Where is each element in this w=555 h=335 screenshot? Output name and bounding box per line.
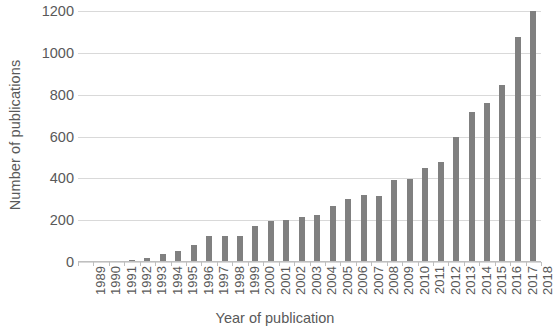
x-axis-tick-label: 2004 — [324, 266, 339, 308]
bar — [361, 195, 367, 262]
bar — [484, 103, 490, 262]
bar — [422, 168, 428, 262]
x-axis-tick-label: 2011 — [432, 266, 447, 308]
bar — [391, 180, 397, 262]
x-axis-tick-label: 2006 — [355, 266, 370, 308]
y-axis-tick-label: 200 — [28, 213, 74, 228]
x-axis-tick-label: 1993 — [154, 266, 169, 308]
x-axis-tick-label: 1999 — [247, 266, 262, 308]
x-axis-tick-labels: 1989199019911992199319941995199619971998… — [78, 266, 541, 308]
x-axis-title: Year of publication — [0, 310, 550, 326]
y-axis-tick-label: 1200 — [28, 4, 74, 19]
x-axis-tick-label: 2009 — [401, 266, 416, 308]
bar — [376, 196, 382, 263]
bar — [252, 226, 258, 262]
y-axis-tick-label: 0 — [28, 255, 74, 270]
bar — [191, 245, 197, 262]
x-axis-tick-label: 1998 — [232, 266, 247, 308]
y-axis-tick-label: 600 — [28, 129, 74, 144]
x-axis-tick-label: 2002 — [293, 266, 308, 308]
x-axis-tick-label: 2000 — [262, 266, 277, 308]
y-axis-tick-label: 1000 — [28, 46, 74, 61]
x-axis-tick-label: 1991 — [124, 266, 139, 308]
bar — [407, 179, 413, 262]
bar — [206, 236, 212, 262]
x-axis-tick-label: 1994 — [170, 266, 185, 308]
bar — [530, 11, 536, 262]
x-axis-tick-label: 1992 — [139, 266, 154, 308]
x-axis-tick-label: 2005 — [340, 266, 355, 308]
y-axis-tick-labels: 020040060080010001200 — [28, 0, 74, 275]
bar — [499, 85, 505, 262]
x-axis-tick-label: 2012 — [448, 266, 463, 308]
bar — [438, 162, 444, 262]
y-axis-title-label: Number of publications — [7, 60, 23, 211]
bar — [314, 215, 320, 262]
bar — [268, 221, 274, 262]
x-axis-tick-label: 1996 — [201, 266, 216, 308]
bar — [345, 199, 351, 262]
bar — [283, 220, 289, 262]
x-axis-tick-label: 2013 — [463, 266, 478, 308]
x-axis-tick-label: 2014 — [479, 266, 494, 308]
x-axis-title-label: Year of publication — [216, 310, 335, 326]
x-axis-tick-label: 2017 — [525, 266, 540, 308]
bar — [453, 137, 459, 263]
x-axis-tick-label: 2015 — [494, 266, 509, 308]
x-axis-tick-label: 2001 — [278, 266, 293, 308]
bar — [330, 206, 336, 262]
bar — [222, 236, 228, 262]
x-axis-tick-label: 1989 — [93, 266, 108, 308]
bar — [469, 112, 475, 262]
x-axis-tick-label: 1997 — [216, 266, 231, 308]
x-axis-tick-label: 2007 — [371, 266, 386, 308]
bars-series — [78, 11, 541, 262]
x-axis-tick-label: 1995 — [185, 266, 200, 308]
y-axis-tick-label: 800 — [28, 87, 74, 102]
bar — [515, 37, 521, 262]
x-axis-tick-label: 2003 — [309, 266, 324, 308]
x-axis-tick-label: 2008 — [386, 266, 401, 308]
plot-area — [78, 11, 541, 262]
y-axis-title: Number of publications — [0, 0, 30, 270]
x-axis-tick-label: 2016 — [509, 266, 524, 308]
x-axis-tick-label: 1990 — [108, 266, 123, 308]
y-axis-tick-label: 400 — [28, 171, 74, 186]
bar — [299, 217, 305, 262]
x-axis-tick-label: 2010 — [417, 266, 432, 308]
x-axis-tick-label: 2018 — [540, 266, 555, 308]
bar — [237, 236, 243, 262]
